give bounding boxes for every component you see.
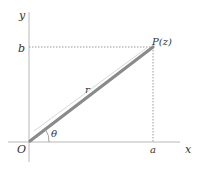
point-label: P(z) (151, 36, 172, 47)
modulus-measure-line (34, 47, 148, 131)
x-axis-label: x (185, 143, 192, 156)
theta-label: θ (51, 128, 57, 139)
angle-arc (46, 130, 50, 143)
a-label: a (150, 144, 156, 155)
origin-label: O (17, 143, 26, 156)
complex-plane-diagram: y b P(z) r θ O a x (0, 0, 202, 173)
y-axis-label: y (18, 9, 26, 22)
radius-line (30, 47, 153, 141)
b-label: b (18, 42, 25, 55)
